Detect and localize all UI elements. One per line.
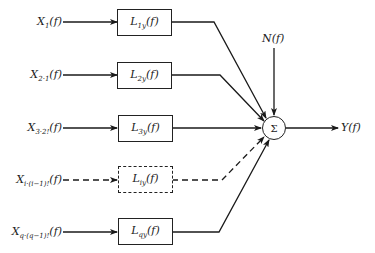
block-label-3: L3y(f) xyxy=(131,122,159,136)
block-label-1: L1y(f) xyxy=(130,16,158,30)
transfer-block-1: L1y(f) xyxy=(117,9,172,36)
transfer-block-3: L3y(f) xyxy=(118,115,173,142)
input-label-q: Xq·(q−1)!(f) xyxy=(0,226,62,240)
noise-label: N(f) xyxy=(262,33,284,44)
input-label-1: X1(f) xyxy=(0,16,62,30)
summing-junction: Σ xyxy=(262,116,286,140)
input-label-3: X3·2!(f) xyxy=(0,122,62,136)
output-label: Y(f) xyxy=(341,122,361,133)
path-block-2-to-sum xyxy=(172,75,264,121)
path-block-q-to-sum xyxy=(172,140,269,232)
transfer-block-q: Lqy(f) xyxy=(118,218,173,245)
transfer-block-i: Liy(f) xyxy=(118,166,173,193)
block-label-i: Liy(f) xyxy=(132,173,158,187)
transfer-block-2: L2y(f) xyxy=(117,62,172,89)
input-label-i: Xi·(i−1)!(f) xyxy=(0,174,62,188)
sigma-icon: Σ xyxy=(270,123,277,134)
block-label-2: L2y(f) xyxy=(130,69,158,83)
block-label-q: Lqy(f) xyxy=(131,225,159,239)
path-block-1-to-sum xyxy=(172,22,266,118)
input-label-2: X2·1(f) xyxy=(0,69,62,83)
